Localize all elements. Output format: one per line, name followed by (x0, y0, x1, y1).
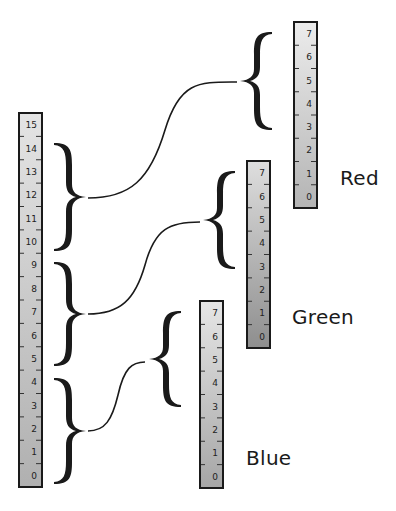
red-tick-label: 4 (306, 99, 312, 109)
blue-tick-label: 0 (212, 472, 218, 482)
blue-tick-label: 5 (212, 355, 218, 365)
blue-tick-label: 1 (212, 448, 218, 458)
brace-source-red (54, 143, 86, 251)
source-tick-label: 2 (31, 424, 37, 434)
source-tick-label: 9 (31, 260, 37, 270)
brace-green-channel (203, 171, 235, 269)
channel-label-blue: Blue (246, 446, 291, 470)
blue-tick-label: 3 (212, 402, 218, 412)
connector-green (88, 222, 200, 314)
brace-red-channel (240, 32, 272, 130)
red-tick-label: 0 (306, 192, 312, 202)
blue-tick-label: 2 (212, 425, 218, 435)
green-tick-label: 5 (259, 215, 265, 225)
diagram-canvas: 1514131211109876543210 76543210 76543210… (0, 0, 396, 511)
green-tick-label: 4 (259, 238, 265, 248)
source-tick-label: 5 (31, 354, 37, 364)
blue-channel-ruler: 76543210 (200, 301, 223, 488)
source-tick-label: 12 (26, 190, 37, 200)
blue-tick-label: 6 (212, 332, 218, 342)
green-tick-label: 0 (259, 332, 265, 342)
source-tick-label: 4 (31, 377, 37, 387)
brace-source-blue (54, 378, 86, 484)
red-tick-label: 5 (306, 76, 312, 86)
green-channel-ruler: 76543210 (247, 161, 270, 348)
channel-label-red: Red (340, 166, 379, 190)
source-tick-label: 10 (26, 237, 38, 247)
source-tick-label: 7 (31, 307, 37, 317)
source-tick-label: 0 (31, 471, 37, 481)
channel-label-green: Green (292, 305, 354, 329)
source-tick-label: 13 (26, 167, 37, 177)
brace-source-green (54, 262, 86, 366)
source-tick-label: 11 (26, 214, 37, 224)
connector-red (88, 82, 237, 198)
red-tick-label: 2 (306, 145, 312, 155)
green-tick-label: 7 (259, 168, 265, 178)
green-tick-label: 6 (259, 192, 265, 202)
source-tick-label: 15 (26, 120, 37, 130)
source-scale-ruler: 1514131211109876543210 (19, 113, 42, 487)
brace-blue-channel (149, 311, 181, 407)
source-tick-label: 8 (31, 284, 37, 294)
green-tick-label: 2 (259, 285, 265, 295)
source-tick-label: 6 (31, 331, 37, 341)
green-tick-label: 1 (259, 308, 265, 318)
red-tick-label: 1 (306, 169, 312, 179)
connector-blue (88, 362, 145, 431)
blue-tick-label: 4 (212, 378, 218, 388)
red-tick-label: 3 (306, 122, 312, 132)
red-channel-ruler: 76543210 (294, 22, 317, 208)
blue-tick-label: 7 (212, 308, 218, 318)
source-tick-label: 1 (31, 447, 37, 457)
red-tick-label: 6 (306, 52, 312, 62)
green-tick-label: 3 (259, 262, 265, 272)
source-tick-label: 14 (26, 144, 38, 154)
source-tick-label: 3 (31, 401, 37, 411)
red-tick-label: 7 (306, 29, 312, 39)
